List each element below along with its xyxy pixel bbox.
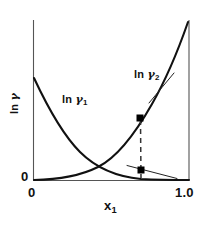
curve1-prefix: ln [62, 93, 75, 105]
curve-label-ln-gamma-2: ln γ2 [134, 69, 159, 82]
upper-marker [137, 115, 144, 122]
curve-ln-gamma-1 [34, 78, 189, 180]
y-axis-title-text: ln [8, 100, 20, 113]
x-axis-tick-label-one: 1.0 [175, 186, 194, 199]
curve1-subscript: 1 [83, 98, 87, 107]
curve-ln-gamma-2 [34, 22, 188, 180]
curve2-subscript: 2 [155, 73, 159, 82]
activity-coefficient-plot: ln γ ln γ1 ln γ2 0 0 1.0 x1 [0, 0, 210, 225]
curve2-prefix: ln [134, 68, 147, 80]
tangent-line-lower [127, 166, 177, 179]
curve1-gamma-symbol: γ [75, 93, 82, 106]
y-axis-title: ln γ [9, 72, 20, 93]
curve2-gamma-symbol: γ [147, 68, 154, 81]
curve-label-ln-gamma-1: ln γ1 [62, 94, 87, 107]
x-axis-tick-label-zero: 0 [28, 186, 35, 199]
x-axis-title: x1 [104, 199, 117, 215]
lower-marker [138, 167, 145, 174]
x-axis-title-subscript: 1 [111, 205, 116, 215]
y-axis-gamma-symbol: γ [8, 93, 21, 100]
y-axis-tick-label-zero: 0 [21, 170, 28, 183]
